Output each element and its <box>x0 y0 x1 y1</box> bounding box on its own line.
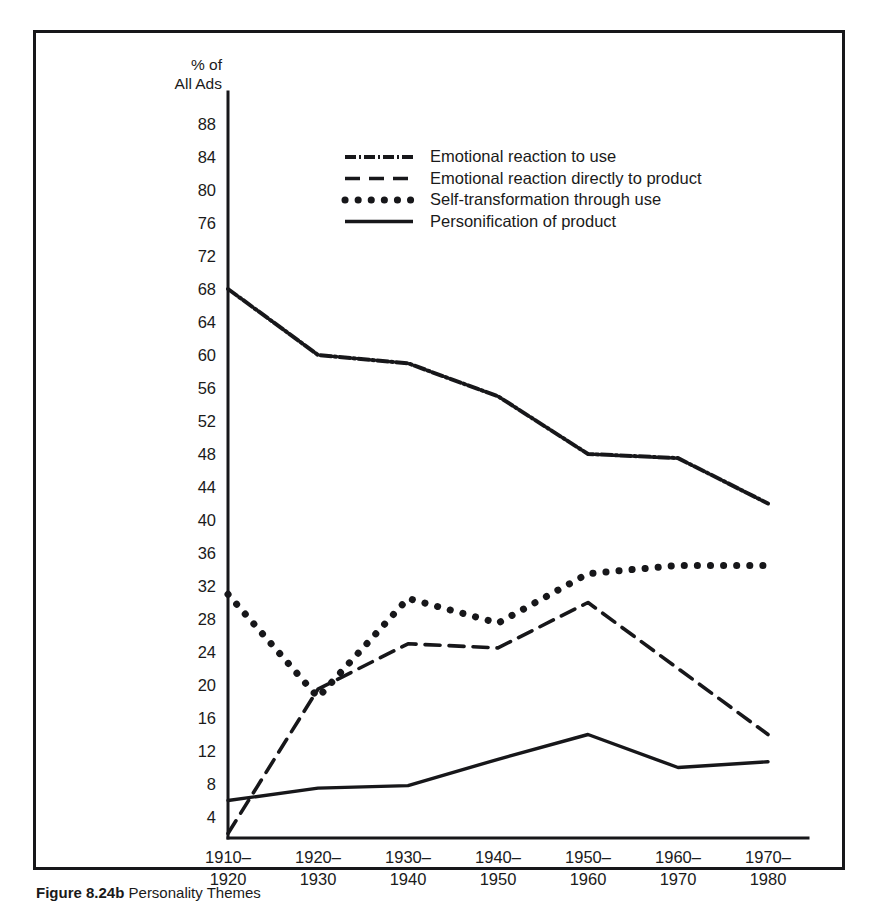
x-tick-label-top: 1930– <box>385 848 432 866</box>
x-axis-tick-labels: 1910–19201920–19301930–19401940–19501950… <box>205 848 792 888</box>
y-tick-label: 32 <box>198 577 216 595</box>
legend-label: Self-transformation through use <box>430 190 661 208</box>
legend-label: Emotional reaction directly to product <box>430 169 702 187</box>
chart-plot-area: % of All Ads 888480767268646056524844403… <box>0 0 876 904</box>
figure-caption: Figure 8.24b Personality Themes <box>36 884 826 904</box>
y-axis-title-line1: % of <box>191 56 223 73</box>
y-tick-label: 84 <box>198 148 216 166</box>
line-chart: % of All Ads 888480767268646056524844403… <box>0 0 876 904</box>
y-tick-label: 40 <box>198 511 216 529</box>
series-line-dashed <box>228 603 768 834</box>
y-tick-label: 4 <box>207 808 216 826</box>
x-tick-label-top: 1940– <box>475 848 522 866</box>
y-tick-label: 64 <box>198 313 216 331</box>
x-tick-label-top: 1910– <box>205 848 252 866</box>
series-line-dash-dot <box>228 289 768 504</box>
y-tick-label: 56 <box>198 379 216 397</box>
caption-figure-number: Figure 8.24b <box>36 884 124 901</box>
y-axis-title-line2: All Ads <box>175 75 223 92</box>
y-tick-label: 68 <box>198 280 216 298</box>
y-tick-label: 88 <box>198 115 216 133</box>
y-tick-label: 44 <box>198 478 216 496</box>
y-tick-label: 80 <box>198 181 216 199</box>
x-tick-label-top: 1960– <box>655 848 702 866</box>
x-tick-label-top: 1950– <box>565 848 612 866</box>
y-tick-label: 24 <box>198 643 216 661</box>
y-tick-label: 52 <box>198 412 216 430</box>
y-tick-label: 76 <box>198 214 216 232</box>
y-tick-label: 16 <box>198 709 216 727</box>
y-axis-tick-labels: 8884807672686460565248444036322824201612… <box>198 115 216 826</box>
y-tick-label: 60 <box>198 346 216 364</box>
y-tick-label: 20 <box>198 676 216 694</box>
series-line-dotted <box>228 565 768 697</box>
caption-title: Personality Themes <box>129 884 261 901</box>
legend-label: Personification of product <box>430 212 617 230</box>
x-tick-label-top: 1920– <box>295 848 342 866</box>
y-tick-label: 12 <box>198 742 216 760</box>
x-tick-label-top: 1970– <box>745 848 792 866</box>
y-tick-label: 36 <box>198 544 216 562</box>
legend-label: Emotional reaction to use <box>430 147 616 165</box>
y-tick-label: 72 <box>198 247 216 265</box>
chart-legend: Emotional reaction to useEmotional react… <box>345 147 702 230</box>
chart-series-group <box>228 289 768 834</box>
y-tick-label: 8 <box>207 775 216 793</box>
y-tick-label: 48 <box>198 445 216 463</box>
series-line-solid <box>228 735 768 801</box>
y-tick-label: 28 <box>198 610 216 628</box>
figure-root: % of All Ads 888480767268646056524844403… <box>0 0 876 904</box>
